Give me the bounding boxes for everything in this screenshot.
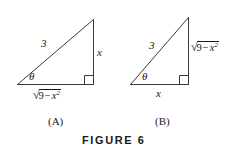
radicand-exponent: 2 xyxy=(214,41,218,49)
triangle-a-radicand: 9−x2 xyxy=(39,89,61,102)
figure-6-container: 3 x θ √ 9−x2 3 √ 9−x2 θ x (A) (B) FIGURE… xyxy=(0,0,230,156)
triangle-b-hypotenuse-edge xyxy=(131,18,189,85)
figure-caption: FIGURE 6 xyxy=(82,135,146,146)
radicand-operator: − xyxy=(202,42,210,53)
triangle-b-edges xyxy=(131,18,189,85)
radical-surd-icon: √ xyxy=(33,89,40,101)
panel-label-a: (A) xyxy=(48,116,63,127)
triangle-a-angle-label: θ xyxy=(29,71,34,82)
radicand-exponent: 2 xyxy=(56,89,60,97)
triangle-b-base-label: x xyxy=(156,88,161,99)
triangle-a-drawing xyxy=(0,0,230,156)
triangle-b-right-angle-marker xyxy=(180,76,189,85)
triangle-b-angle-label: θ xyxy=(142,71,147,82)
panel-label-b: (B) xyxy=(155,116,170,127)
triangle-b-vertical-radical-label: √ 9−x2 xyxy=(191,41,219,54)
radical-surd-icon: √ xyxy=(191,41,198,53)
triangle-a-vertical-leg-label: x xyxy=(97,47,102,58)
triangle-a-right-angle-marker xyxy=(85,76,94,85)
triangle-a-hypotenuse-label: 3 xyxy=(41,38,47,49)
triangle-b-radicand: 9−x2 xyxy=(197,41,219,54)
radicand-operator: − xyxy=(44,90,52,101)
triangle-b-hypotenuse-label: 3 xyxy=(149,40,155,51)
triangle-a-base-radical-label: √ 9−x2 xyxy=(33,89,61,102)
